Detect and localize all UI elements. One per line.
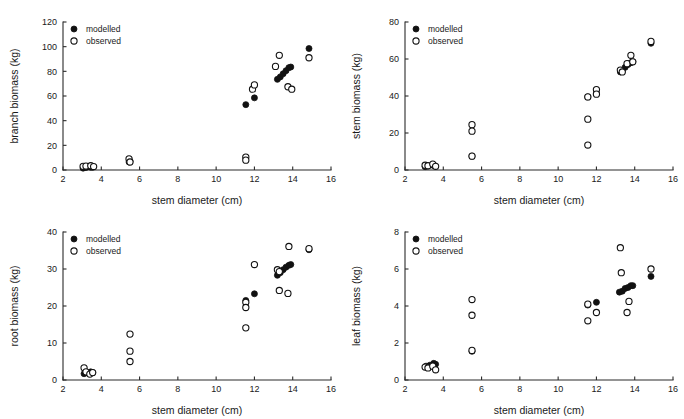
legend-marker-observed <box>71 248 77 254</box>
x-tick-label: 4 <box>99 174 104 184</box>
x-tick-label: 6 <box>137 174 142 184</box>
data-point-observed <box>626 298 632 304</box>
series-modelled <box>422 40 654 169</box>
y-axis-ticks: 010203040 <box>47 227 67 385</box>
data-point-observed <box>243 304 249 310</box>
data-point-observed <box>619 69 625 75</box>
data-point-observed <box>276 268 282 274</box>
x-tick-label: 4 <box>441 384 446 394</box>
data-point-observed <box>648 266 654 272</box>
x-tick-label: 4 <box>99 384 104 394</box>
x-axis-title: stem diameter (cm) <box>152 194 242 206</box>
x-tick-label: 8 <box>175 384 180 394</box>
series-observed <box>422 38 654 169</box>
y-tick-label: 40 <box>47 227 57 237</box>
y-tick-label: 4 <box>394 301 399 311</box>
x-axis-ticks: 246810121416 <box>402 377 678 395</box>
y-tick-label: 80 <box>47 67 57 77</box>
series-observed <box>81 243 312 377</box>
y-tick-label: 60 <box>47 91 57 101</box>
data-point-observed <box>285 290 291 296</box>
y-tick-label: 100 <box>42 42 57 52</box>
data-point-modelled <box>288 64 294 70</box>
data-point-observed <box>628 52 634 58</box>
x-tick-label: 6 <box>137 384 142 394</box>
y-axis-ticks: 02468 <box>394 227 409 385</box>
data-point-observed <box>251 261 257 267</box>
x-tick-label: 8 <box>175 174 180 184</box>
series-observed <box>80 52 312 169</box>
y-axis-title: branch biomass (kg) <box>8 48 20 143</box>
x-tick-label: 10 <box>553 174 563 184</box>
legend-label-modelled: modelled <box>86 24 121 34</box>
data-point-observed <box>469 312 475 318</box>
data-point-observed <box>585 142 591 148</box>
legend: modelledobserved <box>413 234 463 256</box>
x-tick-label: 16 <box>668 174 678 184</box>
data-point-modelled <box>251 291 257 297</box>
legend-label-observed: observed <box>428 36 463 46</box>
data-point-observed <box>433 163 439 169</box>
x-tick-label: 12 <box>591 174 601 184</box>
x-tick-label: 16 <box>326 384 336 394</box>
y-tick-label: 20 <box>47 141 57 151</box>
legend-label-modelled: modelled <box>86 234 121 244</box>
y-tick-label: 30 <box>47 264 57 274</box>
data-point-observed <box>469 122 475 128</box>
chart-panel-leaf: 24681012141602468stem diameter (cm)leaf … <box>342 210 684 419</box>
legend: modelledobserved <box>71 24 121 46</box>
data-point-observed <box>433 367 439 373</box>
data-point-observed <box>593 91 599 97</box>
legend-marker-modelled <box>71 236 77 242</box>
legend-label-observed: observed <box>428 246 463 256</box>
data-point-observed <box>585 94 591 100</box>
data-point-observed <box>593 309 599 315</box>
data-point-modelled <box>648 273 654 279</box>
legend-label-observed: observed <box>86 246 121 256</box>
data-point-observed <box>306 246 312 252</box>
x-tick-label: 8 <box>517 384 522 394</box>
y-tick-label: 0 <box>52 165 57 175</box>
legend-marker-modelled <box>71 26 77 32</box>
y-tick-label: 0 <box>52 375 57 385</box>
y-tick-label: 0 <box>394 375 399 385</box>
data-point-observed <box>306 55 312 61</box>
y-axis-ticks: 020406080 <box>389 17 409 175</box>
data-point-observed <box>243 325 249 331</box>
x-tick-label: 2 <box>60 174 65 184</box>
y-tick-label: 8 <box>394 227 399 237</box>
data-point-observed <box>90 370 96 376</box>
x-tick-label: 12 <box>249 174 259 184</box>
x-axis-ticks: 246810121416 <box>402 167 678 185</box>
data-point-observed <box>127 348 133 354</box>
x-tick-label: 16 <box>326 174 336 184</box>
legend-marker-modelled <box>413 236 419 242</box>
x-tick-label: 14 <box>630 174 640 184</box>
y-tick-label: 120 <box>42 17 57 27</box>
data-point-observed <box>289 86 295 92</box>
data-point-observed <box>618 270 624 276</box>
legend-marker-observed <box>71 38 77 44</box>
x-tick-label: 6 <box>479 384 484 394</box>
data-point-observed <box>624 309 630 315</box>
data-point-observed <box>630 59 636 65</box>
x-tick-label: 2 <box>402 384 407 394</box>
y-tick-label: 20 <box>389 128 399 138</box>
legend-marker-observed <box>413 38 419 44</box>
y-tick-label: 6 <box>394 264 399 274</box>
data-point-modelled <box>243 102 249 108</box>
y-tick-label: 20 <box>47 301 57 311</box>
data-point-observed <box>91 163 97 169</box>
legend-label-modelled: modelled <box>428 234 463 244</box>
x-tick-label: 14 <box>288 384 298 394</box>
data-point-observed <box>251 82 257 88</box>
data-point-observed <box>469 296 475 302</box>
x-tick-label: 2 <box>402 174 407 184</box>
legend-label-observed: observed <box>86 36 121 46</box>
data-point-modelled <box>288 262 294 268</box>
data-point-observed <box>276 52 282 58</box>
data-point-modelled <box>630 283 636 289</box>
x-tick-label: 10 <box>553 384 563 394</box>
y-tick-label: 40 <box>47 116 57 126</box>
y-tick-label: 2 <box>394 338 399 348</box>
